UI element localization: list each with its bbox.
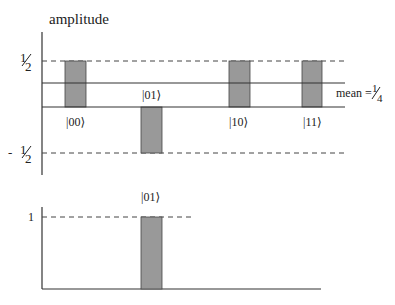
svg-text:-: - [8,145,12,160]
svg-text:2: 2 [25,59,32,74]
bar-11 [302,61,322,107]
svg-text:2: 2 [25,151,32,166]
state-label-11: |11⟩ [303,115,322,129]
bar-01 [141,107,162,153]
state-label-01-bottom: |01⟩ [141,190,160,204]
svg-text:mean =: mean = [336,86,372,100]
bar-01-bottom [141,217,162,289]
bar-10 [229,61,250,107]
state-label-10: |10⟩ [229,115,248,129]
y-axis-label: amplitude [49,11,109,27]
state-label-00: |00⟩ [66,115,85,129]
amplitude-diagram: amplitude 1 2 - 1 2 |00⟩ |01⟩ |10⟩ |11⟩ … [0,0,395,305]
mean-label: mean = 1 4 [336,82,383,104]
tick-neg-half: - 1 2 [8,142,32,166]
bar-00 [65,61,86,107]
svg-text:4: 4 [377,92,383,104]
tick-half: 1 2 [20,50,32,74]
state-label-01: |01⟩ [142,88,161,102]
tick-one: 1 [28,210,34,224]
